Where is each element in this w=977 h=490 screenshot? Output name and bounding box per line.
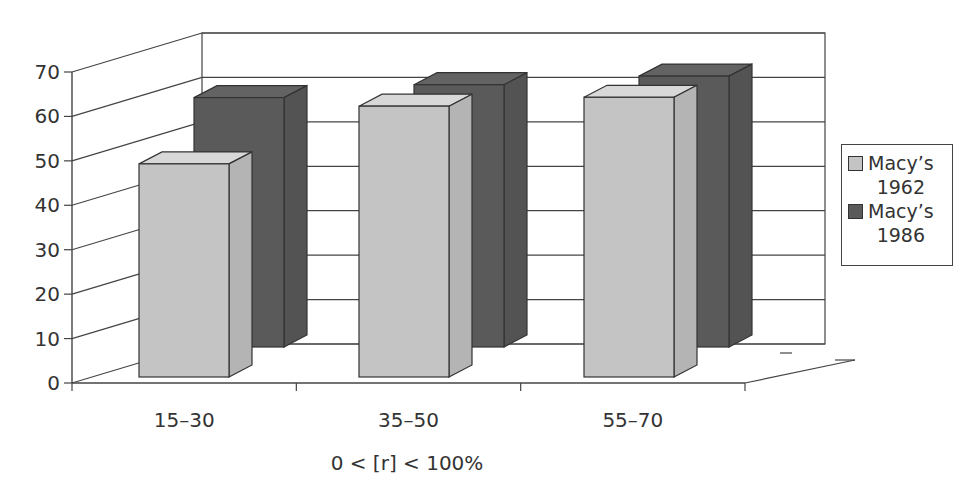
bar-1986-side (504, 73, 527, 347)
y-tick-label: 50 (35, 149, 60, 173)
side-gridline (72, 77, 202, 116)
bar-1962-front (139, 164, 229, 377)
side-gridline (72, 33, 202, 72)
bar-1986-side (284, 86, 307, 347)
y-tick-label: 30 (35, 238, 60, 262)
chart-plot-area: 01020304050607015–3035–5055–700 < [r] < … (0, 0, 977, 490)
bar-1986-side (729, 64, 752, 347)
legend-item-1986: Macy’s 1986 (848, 199, 952, 247)
legend-label-1962: Macy’s 1962 (868, 151, 934, 199)
y-tick-label: 60 (35, 104, 60, 128)
y-tick-label: 40 (35, 193, 60, 217)
legend-label-1986: Macy’s 1986 (868, 199, 934, 247)
legend-swatch-1986 (848, 204, 863, 219)
x-tick-label: 35–50 (378, 408, 439, 432)
y-tick-label: 20 (35, 282, 60, 306)
x-tick-label: 55–70 (602, 408, 663, 432)
bar-1962-side (449, 94, 472, 377)
floor-right-edge (745, 360, 855, 383)
legend: Macy’s 1962 Macy’s 1986 (841, 144, 953, 266)
y-tick-label: 0 (47, 371, 60, 395)
y-tick-label: 70 (35, 60, 60, 84)
legend-swatch-1962 (848, 156, 863, 171)
bar-1962-side (674, 85, 697, 377)
y-tick-label: 10 (35, 327, 60, 351)
bar-1962-front (359, 106, 449, 377)
chart: 01020304050607015–3035–5055–700 < [r] < … (0, 0, 977, 490)
bar-1962-front (584, 97, 674, 377)
x-axis-label: 0 < [r] < 100% (331, 451, 484, 475)
bar-1962-side (229, 152, 252, 377)
legend-item-1962: Macy’s 1962 (848, 151, 952, 199)
x-tick-label: 15–30 (154, 408, 215, 432)
